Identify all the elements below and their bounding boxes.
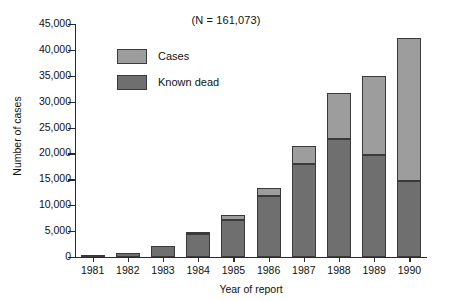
x-tick-label: 1989 xyxy=(363,264,386,276)
bar-segment-known-dead xyxy=(362,155,386,257)
x-tick-label: 1984 xyxy=(187,264,210,276)
bar-segment-known-dead xyxy=(221,220,245,257)
y-tick-label: 30,000 xyxy=(39,95,71,107)
x-tick-mark xyxy=(198,257,199,262)
x-tick-label: 1981 xyxy=(81,264,104,276)
y-tick-label: 40,000 xyxy=(39,43,71,55)
bar-segment-cases xyxy=(186,232,210,234)
chart-figure: (N = 161,073) Number of cases Year of re… xyxy=(0,0,452,301)
x-tick-label: 1985 xyxy=(222,264,245,276)
x-tick-mark xyxy=(128,257,129,262)
y-tick-label: 5,000 xyxy=(45,224,71,236)
bar-segment-known-dead xyxy=(186,234,210,257)
x-tick-mark xyxy=(269,257,270,262)
bar-segment-known-dead xyxy=(327,139,351,257)
x-tick-label: 1990 xyxy=(398,264,421,276)
bar-segment-cases xyxy=(327,93,351,139)
x-tick-mark xyxy=(163,257,164,262)
legend-label: Known dead xyxy=(158,76,219,88)
bar-stack xyxy=(221,24,245,257)
y-tick-label: 15,000 xyxy=(39,172,71,184)
x-tick-mark xyxy=(339,257,340,262)
bar-segment-cases xyxy=(362,76,386,155)
x-tick-label: 1987 xyxy=(292,264,315,276)
bar-segment-known-dead xyxy=(257,196,281,257)
bar-stack xyxy=(397,24,421,257)
legend-label: Cases xyxy=(158,50,189,62)
y-tick-label: 10,000 xyxy=(39,198,71,210)
y-axis-line xyxy=(75,24,76,257)
x-tick-label: 1983 xyxy=(151,264,174,276)
bar-stack xyxy=(81,24,105,257)
x-tick-label: 1988 xyxy=(327,264,350,276)
legend-swatch xyxy=(117,49,147,64)
bar-stack xyxy=(292,24,316,257)
bar-segment-known-dead xyxy=(397,181,421,257)
bar-segment-cases xyxy=(292,146,316,164)
bar-segment-cases xyxy=(221,215,245,220)
bar-segment-cases xyxy=(397,38,421,181)
x-tick-mark xyxy=(93,257,94,262)
x-tick-label: 1982 xyxy=(116,264,139,276)
y-tick-label: 35,000 xyxy=(39,69,71,81)
y-axis-label: Number of cases xyxy=(11,76,23,196)
bar-segment-cases xyxy=(257,188,281,196)
x-tick-mark xyxy=(304,257,305,262)
bar-segment-known-dead xyxy=(151,246,175,257)
bar-segment-known-dead xyxy=(292,164,316,257)
x-tick-mark xyxy=(409,257,410,262)
y-tick-label: 45,000 xyxy=(39,17,71,29)
bar-stack xyxy=(327,24,351,257)
bar-stack xyxy=(257,24,281,257)
y-tick-label: 0 xyxy=(65,250,71,262)
y-tick-label: 25,000 xyxy=(39,121,71,133)
x-tick-label: 1986 xyxy=(257,264,280,276)
bar-segment-known-dead xyxy=(116,253,140,257)
legend-item: Cases xyxy=(117,46,219,66)
chart-legend: CasesKnown dead xyxy=(117,46,219,98)
legend-swatch xyxy=(117,75,147,90)
x-tick-mark xyxy=(374,257,375,262)
y-tick-label: 20,000 xyxy=(39,146,71,158)
x-axis-label: Year of report xyxy=(75,283,427,295)
bar-stack xyxy=(362,24,386,257)
x-tick-mark xyxy=(233,257,234,262)
bar-segment-known-dead xyxy=(81,255,105,257)
legend-item: Known dead xyxy=(117,72,219,92)
